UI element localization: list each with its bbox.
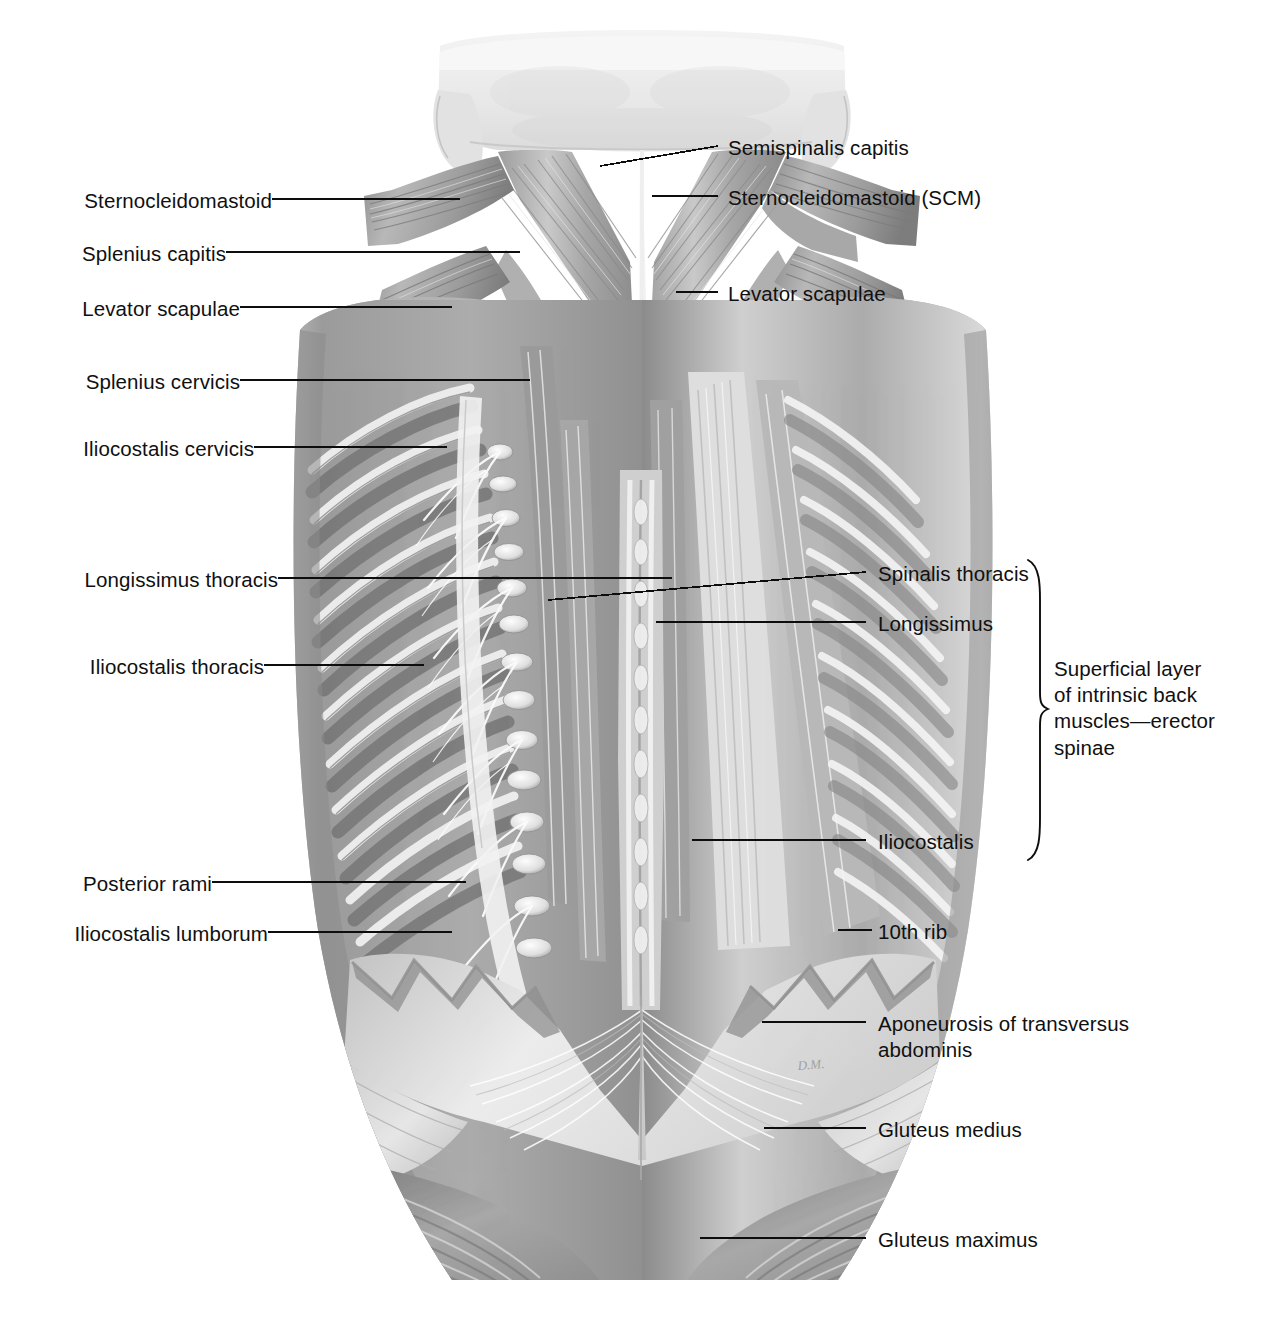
label-tenth-rib: 10th rib: [878, 919, 947, 945]
label-iliocostalis-thoracis: Iliocostalis thoracis: [0, 654, 272, 680]
label-iliocostalis-cervicis: Iliocostalis cervicis: [0, 436, 262, 462]
label-splenius-cervicis: Splenius cervicis: [0, 369, 248, 395]
label-levator-scapulae-right: Levator scapulae: [728, 281, 886, 307]
anatomy-figure-page: D.M. Sternocleidomastoid Splenius capiti…: [0, 0, 1283, 1333]
label-posterior-rami: Posterior rami: [0, 871, 220, 897]
label-sternocleidomastoid: Sternocleidomastoid: [0, 188, 280, 214]
label-longissimus-thoracis: Longissimus thoracis: [0, 567, 286, 593]
label-longissimus: Longissimus: [878, 611, 993, 637]
label-aponeurosis-transversus-abdominis: Aponeurosis of transversus abdominis: [878, 1011, 1129, 1063]
midline-spine: [618, 470, 664, 1010]
label-erector-spinae-group: Superficial layer of intrinsic back musc…: [1054, 656, 1215, 761]
label-semispinalis-capitis: Semispinalis capitis: [728, 135, 909, 161]
label-spinalis-thoracis: Spinalis thoracis: [878, 561, 1029, 587]
label-iliocostalis: Iliocostalis: [878, 829, 974, 855]
label-splenius-capitis: Splenius capitis: [0, 241, 234, 267]
label-sternocleidomastoid-scm: Sternocleidomastoid (SCM): [728, 185, 981, 211]
label-gluteus-maximus: Gluteus maximus: [878, 1227, 1038, 1253]
artist-signature: D.M.: [796, 1056, 825, 1073]
label-gluteus-medius: Gluteus medius: [878, 1117, 1022, 1143]
label-iliocostalis-lumborum: Iliocostalis lumborum: [0, 921, 276, 947]
label-levator-scapulae-left: Levator scapulae: [0, 296, 248, 322]
